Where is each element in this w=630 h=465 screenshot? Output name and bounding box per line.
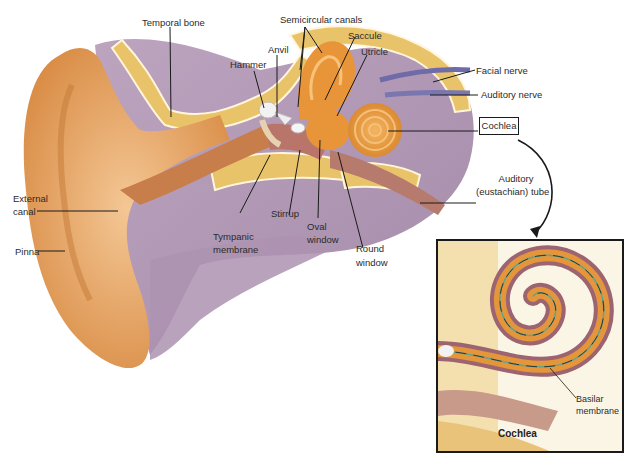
cochlea-inset-panel: Basilar membrane Cochlea bbox=[436, 239, 624, 453]
label-external-canal-line2: canal bbox=[13, 206, 36, 218]
label-utricle: Utricle bbox=[361, 46, 388, 58]
label-temporal-bone: Temporal bone bbox=[142, 17, 205, 29]
inset-title: Cochlea bbox=[498, 428, 537, 439]
label-semicircular-canals: Semicircular canals bbox=[280, 14, 362, 26]
label-hammer: Hammer bbox=[230, 59, 266, 71]
label-oval-window-line1: Oval bbox=[307, 221, 327, 233]
label-round-window-line1: Round bbox=[356, 243, 384, 255]
label-anvil: Anvil bbox=[268, 44, 289, 56]
label-round-window-line2: window bbox=[356, 257, 388, 269]
label-saccule: Saccule bbox=[348, 30, 382, 42]
label-tympanic-line2: membrane bbox=[213, 244, 258, 256]
label-stirrup: Stirrup bbox=[271, 208, 299, 220]
cochlea-callout-box: Cochlea bbox=[479, 117, 519, 135]
label-cochlea: Cochlea bbox=[480, 120, 518, 131]
label-auditory-nerve: Auditory nerve bbox=[481, 89, 542, 101]
label-basilar-line2: membrane bbox=[576, 406, 619, 417]
label-tympanic-line1: Tympanic bbox=[213, 231, 254, 243]
label-auditory-tube-line1: Auditory bbox=[476, 173, 556, 185]
cochlea-spiral-illustration bbox=[438, 241, 624, 453]
label-pinna: Pinna bbox=[15, 246, 39, 258]
cochlea-shape bbox=[348, 103, 402, 157]
label-oval-window-line2: window bbox=[307, 234, 339, 246]
label-auditory-tube-line2: (eustachian) tube bbox=[476, 186, 549, 198]
label-basilar-line1: Basilar bbox=[576, 394, 604, 405]
label-facial-nerve: Facial nerve bbox=[476, 65, 528, 77]
label-external-canal-line1: External bbox=[13, 193, 48, 205]
